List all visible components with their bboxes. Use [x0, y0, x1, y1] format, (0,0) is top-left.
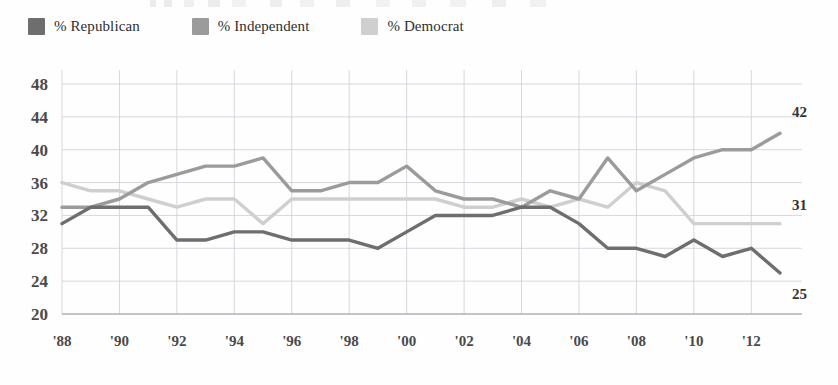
y-tick-36: 36: [31, 174, 48, 193]
y-tick-44: 44: [31, 108, 49, 127]
legend-item-independent[interactable]: % Independent: [192, 18, 310, 35]
legend-swatch-democrat: [361, 18, 378, 35]
chart-plot-area: 4844403632282420 '88'90'92'94'96'98'00'0…: [0, 62, 838, 362]
x-axis-tick-labels: '88'90'92'94'96'98'00'02'04'06'08'10'12: [52, 333, 760, 349]
line-chart-svg: 4844403632282420 '88'90'92'94'96'98'00'0…: [0, 62, 838, 362]
legend-swatch-republican: [28, 18, 45, 35]
y-tick-32: 32: [31, 206, 48, 225]
y-tick-24: 24: [31, 272, 49, 291]
end-value-labels: 423125: [792, 104, 807, 302]
y-tick-28: 28: [31, 239, 48, 258]
x-tick-08: '08: [627, 333, 646, 349]
x-tick-92: '92: [167, 333, 186, 349]
data-series-group: [62, 133, 780, 273]
y-axis-tick-labels: 4844403632282420: [31, 75, 49, 324]
legend-item-democrat[interactable]: % Democrat: [361, 18, 463, 35]
series-line-democrat: [62, 183, 780, 224]
end-label-democrat: 31: [792, 197, 807, 213]
series-line-independent: [62, 133, 780, 207]
y-tick-20: 20: [31, 305, 48, 324]
x-tick-96: '96: [282, 333, 302, 349]
end-label-independent: 42: [792, 104, 807, 120]
legend-label-democrat: % Democrat: [387, 18, 463, 35]
legend-swatch-independent: [192, 18, 209, 35]
x-tick-02: '02: [454, 333, 473, 349]
end-label-republican: 25: [792, 286, 807, 302]
x-tick-12: '12: [742, 333, 761, 349]
chart-legend: % Republican % Independent % Democrat: [28, 18, 464, 35]
x-tick-04: '04: [512, 333, 532, 349]
x-tick-06: '06: [569, 333, 589, 349]
x-tick-10: '10: [684, 333, 703, 349]
y-tick-48: 48: [31, 75, 48, 94]
legend-item-republican[interactable]: % Republican: [28, 18, 140, 35]
cropped-title-remnant: [150, 0, 570, 7]
vertical-gridlines: [62, 70, 751, 314]
legend-label-independent: % Independent: [218, 18, 310, 35]
x-tick-94: '94: [225, 333, 245, 349]
y-tick-40: 40: [31, 141, 48, 160]
legend-label-republican: % Republican: [54, 18, 140, 35]
x-tick-88: '88: [52, 333, 71, 349]
x-tick-90: '90: [110, 333, 129, 349]
x-tick-00: '00: [397, 333, 416, 349]
series-line-republican: [62, 207, 780, 273]
x-tick-98: '98: [340, 333, 359, 349]
